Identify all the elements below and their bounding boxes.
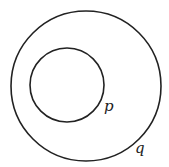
label-q: q <box>135 139 145 157</box>
inner-circle-p <box>30 48 104 122</box>
venn-diagram: p q <box>0 0 169 167</box>
label-p: p <box>104 97 114 115</box>
